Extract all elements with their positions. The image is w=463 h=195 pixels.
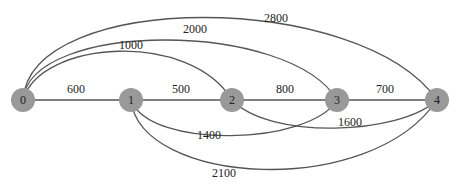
edge-0-4 [23,18,437,101]
graph-diagram: 600 500 800 700 1000 2000 2800 1400 1600… [0,0,463,195]
node-label-0: 0 [20,93,26,107]
edge-1-4 [131,100,437,169]
edge-label-0-4: 2800 [264,11,288,25]
node-label-1: 1 [128,93,134,107]
edge-label-3-4: 700 [376,82,394,96]
edge-label-2-4: 1600 [338,115,362,129]
node-4: 4 [425,88,449,112]
edge-label-2-3: 800 [276,82,294,96]
node-2: 2 [220,88,244,112]
edge-label-0-2: 1000 [119,38,143,52]
edge-label-1-2: 500 [172,82,190,96]
node-label-3: 3 [334,93,340,107]
edge-label-0-1: 600 [67,82,85,96]
node-label-4: 4 [434,93,440,107]
edge-label-0-3: 2000 [183,22,207,36]
edge-label-1-3: 1400 [197,128,221,142]
node-label-2: 2 [229,93,235,107]
edge-label-1-4: 2100 [212,166,236,180]
node-3: 3 [325,88,349,112]
node-0: 0 [11,88,35,112]
node-1: 1 [119,88,143,112]
